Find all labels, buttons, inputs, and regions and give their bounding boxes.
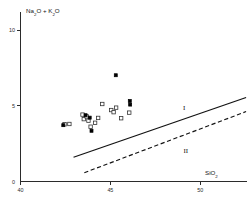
data-point-filled (114, 74, 117, 77)
data-point-filled (128, 99, 131, 102)
y-axis-group: 0510 (9, 12, 21, 185)
lower-boundary-dashed (84, 112, 246, 173)
x-axis-title: SiO2 (205, 169, 218, 179)
y-tick-label: 0 (12, 179, 15, 185)
data-point-open (81, 113, 84, 116)
region-label-one: I (183, 104, 186, 112)
data-point-open (89, 125, 92, 128)
y-tick-label: 10 (9, 27, 15, 33)
data-point-filled (84, 114, 87, 117)
x-tick-group: 404550 (18, 182, 204, 193)
data-point-filled (90, 129, 93, 132)
y-tick-label: 5 (12, 103, 15, 109)
y-axis-title: Na2O + K2O (26, 7, 60, 17)
region-annotations-group: III (183, 104, 189, 156)
x-axis-group: 404550 (18, 182, 248, 193)
data-point-open (128, 111, 131, 114)
data-point-open (119, 117, 122, 120)
data-point-open (114, 106, 117, 109)
tas-scatter-chart: 0510 404550 Na2O + K2O SiO2 III (0, 0, 252, 200)
upper-boundary-solid (74, 97, 247, 157)
data-point-open (96, 116, 99, 119)
region-label-two: II (184, 147, 189, 155)
x-tick-label: 45 (107, 187, 113, 193)
data-point-open (101, 102, 104, 105)
data-points-group (62, 74, 132, 133)
data-point-filled (129, 103, 132, 106)
plot-canvas: 0510 404550 Na2O + K2O SiO2 III (0, 0, 252, 200)
x-tick-label: 50 (197, 187, 203, 193)
data-point-open (68, 122, 71, 125)
x-tick-label: 40 (18, 187, 24, 193)
data-point-open (112, 110, 115, 113)
data-point-filled (62, 124, 65, 127)
boundary-lines-group (74, 97, 247, 172)
data-point-open (93, 121, 96, 124)
data-point-filled (88, 116, 91, 119)
y-tick-group: 0510 (9, 27, 21, 184)
